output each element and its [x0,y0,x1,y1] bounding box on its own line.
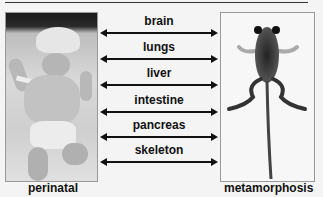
infant-left-leg [28,147,48,181]
connection-skeleton: skeleton [100,143,218,171]
connection-brain: brain [100,14,218,42]
double-arrow-icon [102,84,216,86]
organ-label: liver [100,66,218,80]
top-rule [5,2,308,3]
double-arrow-icon [102,58,216,60]
organ-label: pancreas [100,118,218,132]
double-arrow-icon [102,161,216,163]
infant-right-arm [80,71,92,101]
double-arrow-icon [102,32,216,34]
double-arrow-icon [102,111,216,113]
connection-pancreas: pancreas [100,118,218,146]
caption-metamorphosis: metamorphosis [224,181,313,195]
metamorphosis-photo [220,12,315,182]
organ-label: lungs [100,40,218,54]
caption-perinatal: perinatal [28,181,78,195]
perinatal-photo [5,12,98,182]
infant-torso [24,75,80,125]
double-arrow-icon [102,136,216,138]
tadpole-illustration [221,13,314,181]
organ-label: intestine [100,93,218,107]
infant-hat [36,27,80,53]
connection-liver: liver [100,66,218,94]
infant-right-leg [62,143,88,165]
organ-label: skeleton [100,143,218,157]
infant-face [42,53,70,77]
organ-label: brain [100,14,218,28]
connection-intestine: intestine [100,93,218,121]
connection-lungs: lungs [100,40,218,68]
